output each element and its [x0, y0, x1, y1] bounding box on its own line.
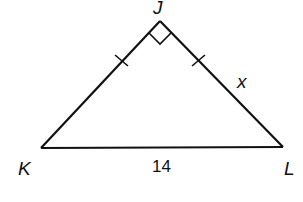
vertex-label-l: L: [284, 158, 295, 179]
side-label-jl: x: [236, 71, 248, 92]
vertex-label-k: K: [18, 158, 32, 179]
vertex-label-j: J: [152, 0, 163, 18]
side-jk: [41, 21, 160, 148]
right-angle-marker: [149, 33, 171, 44]
triangle-diagram: J K L 14 x: [0, 0, 303, 202]
side-kl: [41, 147, 283, 148]
side-label-kl: 14: [152, 157, 171, 176]
side-jl: [160, 21, 283, 147]
